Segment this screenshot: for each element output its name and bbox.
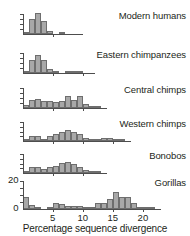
histogram-figure: Modern humansEastern chimpanzeesCentral … xyxy=(0,0,190,236)
x-axis-tick-label: 10 xyxy=(73,212,93,223)
y-axis-tick-label: 20 xyxy=(0,174,19,185)
y-axis-tick-label: 0 xyxy=(0,202,19,213)
histogram-panel: Gorillas200 xyxy=(0,0,190,236)
y-axis-tick xyxy=(20,181,23,182)
y-axis-line xyxy=(23,181,24,209)
y-axis-tick xyxy=(20,188,23,189)
x-axis-tick-label: 15 xyxy=(103,212,123,223)
y-axis-tick xyxy=(20,195,23,196)
y-axis-tick xyxy=(20,202,23,203)
x-axis-label: Percentage sequence divergence xyxy=(0,223,190,234)
x-axis-line xyxy=(23,209,161,210)
x-axis-tick-label: 5 xyxy=(43,212,63,223)
series-label: Gorillas xyxy=(155,177,186,188)
x-axis-tick-label: 20 xyxy=(133,212,153,223)
